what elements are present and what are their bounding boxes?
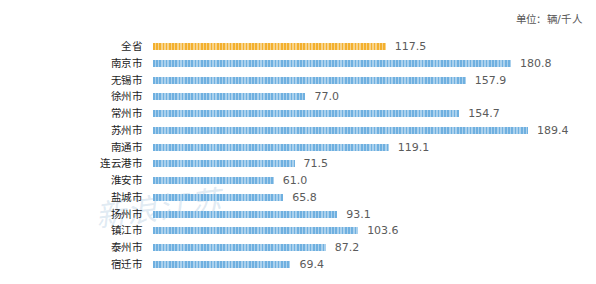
category-label: 盐城市 bbox=[0, 189, 142, 206]
bar-track: 77.0 bbox=[153, 88, 596, 105]
plot-area: 全省117.5南京市180.8无锡市157.9徐州市77.0常州市154.7苏州… bbox=[0, 38, 596, 276]
bar-row: 连云港市71.5 bbox=[0, 155, 596, 172]
value-label: 180.8 bbox=[520, 55, 552, 72]
unit-note: 单位：辆/千人 bbox=[516, 11, 582, 26]
bar[interactable] bbox=[153, 244, 326, 251]
bar-track: 71.5 bbox=[153, 155, 596, 172]
bar-track: 69.4 bbox=[153, 256, 596, 273]
bar-track: 93.1 bbox=[153, 206, 596, 223]
category-label: 泰州市 bbox=[0, 239, 142, 256]
value-label: 154.7 bbox=[468, 105, 500, 122]
bar[interactable] bbox=[153, 211, 337, 218]
bar-row: 镇江市103.6 bbox=[0, 222, 596, 239]
bar-row: 南通市119.1 bbox=[0, 139, 596, 156]
bar-row: 宿迁市69.4 bbox=[0, 256, 596, 273]
bar[interactable] bbox=[153, 144, 389, 151]
value-label: 189.4 bbox=[537, 122, 569, 139]
bar[interactable] bbox=[153, 60, 511, 67]
bar-row: 苏州市189.4 bbox=[0, 122, 596, 139]
bar-track: 189.4 bbox=[153, 122, 596, 139]
bar-track: 103.6 bbox=[153, 222, 596, 239]
value-label: 93.1 bbox=[346, 206, 371, 223]
category-label: 苏州市 bbox=[0, 122, 142, 139]
value-label: 77.0 bbox=[314, 88, 339, 105]
category-label: 宿迁市 bbox=[0, 256, 142, 273]
bar-track: 119.1 bbox=[153, 139, 596, 156]
category-label: 南通市 bbox=[0, 139, 142, 156]
category-label: 镇江市 bbox=[0, 222, 142, 239]
category-label: 南京市 bbox=[0, 55, 142, 72]
bar-track: 154.7 bbox=[153, 105, 596, 122]
value-label: 61.0 bbox=[283, 172, 308, 189]
category-label: 连云港市 bbox=[0, 155, 142, 172]
bar-track: 65.8 bbox=[153, 189, 596, 206]
category-label: 常州市 bbox=[0, 105, 142, 122]
bar[interactable] bbox=[153, 227, 358, 234]
bar[interactable] bbox=[153, 160, 295, 167]
bar-chart: 新浪江苏 单位：辆/千人 全省117.5南京市180.8无锡市157.9徐州市7… bbox=[0, 0, 596, 284]
bar[interactable] bbox=[153, 93, 305, 100]
bar-row: 常州市154.7 bbox=[0, 105, 596, 122]
value-label: 119.1 bbox=[398, 139, 430, 156]
bar[interactable] bbox=[153, 110, 459, 117]
category-label: 无锡市 bbox=[0, 72, 142, 89]
bar-row: 全省117.5 bbox=[0, 38, 596, 55]
bar-track: 157.9 bbox=[153, 72, 596, 89]
value-label: 157.9 bbox=[475, 72, 507, 89]
bar-row: 无锡市157.9 bbox=[0, 72, 596, 89]
bar-row: 盐城市65.8 bbox=[0, 189, 596, 206]
bar-track: 87.2 bbox=[153, 239, 596, 256]
bar-row: 淮安市61.0 bbox=[0, 172, 596, 189]
category-label: 全省 bbox=[0, 38, 142, 55]
bar-row: 徐州市77.0 bbox=[0, 88, 596, 105]
bar-highlight[interactable] bbox=[153, 43, 386, 50]
bar[interactable] bbox=[153, 177, 274, 184]
category-label: 徐州市 bbox=[0, 88, 142, 105]
bar[interactable] bbox=[153, 77, 466, 84]
category-label: 扬州市 bbox=[0, 206, 142, 223]
bar-track: 61.0 bbox=[153, 172, 596, 189]
value-label: 65.8 bbox=[292, 189, 317, 206]
value-label: 69.4 bbox=[299, 256, 324, 273]
bar-track: 180.8 bbox=[153, 55, 596, 72]
bar-row: 南京市180.8 bbox=[0, 55, 596, 72]
bar-track: 117.5 bbox=[153, 38, 596, 55]
bar[interactable] bbox=[153, 261, 290, 268]
bar[interactable] bbox=[153, 194, 283, 201]
value-label: 117.5 bbox=[395, 38, 427, 55]
bar-row: 泰州市87.2 bbox=[0, 239, 596, 256]
bar[interactable] bbox=[153, 127, 528, 134]
value-label: 87.2 bbox=[335, 239, 360, 256]
value-label: 71.5 bbox=[304, 155, 329, 172]
value-label: 103.6 bbox=[367, 222, 399, 239]
bar-row: 扬州市93.1 bbox=[0, 206, 596, 223]
category-label: 淮安市 bbox=[0, 172, 142, 189]
